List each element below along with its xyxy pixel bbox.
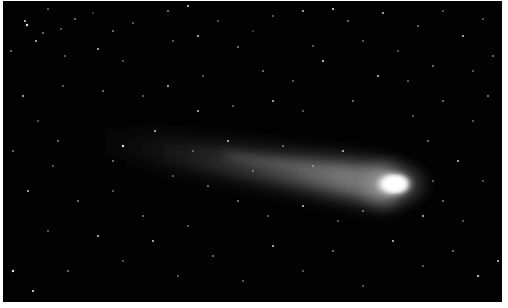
starfield-canvas — [3, 1, 502, 302]
comet-photograph — [3, 1, 502, 302]
comet-tail — [79, 125, 393, 206]
